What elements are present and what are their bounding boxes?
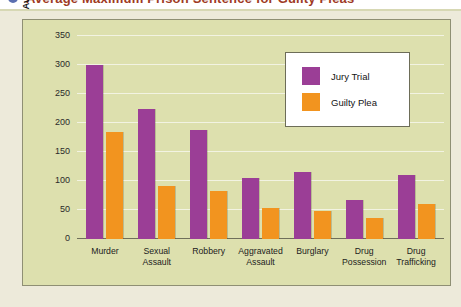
bar-group: SexualAssault — [131, 36, 183, 239]
y-tick-label: 150 — [55, 146, 70, 156]
chart-title-bar: Average Maximum Prison Sentence for Guil… — [0, 0, 461, 9]
bar-guilty-plea — [158, 186, 175, 239]
legend-label: Jury Trial — [331, 71, 370, 82]
bar-guilty-plea — [314, 211, 331, 239]
bar-guilty-plea — [418, 204, 435, 239]
bar-jury-trial — [398, 175, 415, 239]
chart-page: Average Maximum Prison Sentence for Guil… — [0, 0, 461, 307]
bar-jury-trial — [138, 109, 155, 240]
bar-guilty-plea — [106, 132, 123, 239]
legend-swatch — [302, 93, 320, 111]
y-tick-label: 50 — [60, 204, 70, 214]
x-axis-label: SexualAssault — [143, 246, 172, 268]
bar-guilty-plea — [366, 218, 383, 239]
legend-entry: Guilty Plea — [286, 89, 409, 115]
bar-group: AggravatedAssault — [235, 36, 287, 239]
legend-label: Guilty Plea — [331, 97, 377, 108]
blue-bullet-icon — [8, 0, 18, 3]
bar-jury-trial — [242, 178, 259, 239]
y-tick-label: 250 — [55, 88, 70, 98]
chart-panel: Average Maximum Prison Sentence (in mont… — [0, 9, 461, 307]
bar-group: Murder — [79, 36, 131, 239]
x-axis-label: Murder — [91, 246, 119, 257]
y-tick-label: 100 — [55, 175, 70, 185]
bar-jury-trial — [190, 130, 207, 239]
legend-swatch — [302, 67, 320, 85]
x-axis-label: Robbery — [192, 246, 225, 257]
y-tick-label: 200 — [55, 117, 70, 127]
page-title: Average Maximum Prison Sentence for Guil… — [26, 0, 354, 6]
legend-entry: Jury Trial — [286, 63, 409, 89]
x-axis-label: DrugTrafficking — [396, 246, 436, 268]
plot-frame: Average Maximum Prison Sentence (in mont… — [22, 19, 451, 286]
bar-jury-trial — [346, 200, 363, 239]
x-axis-label: AggravatedAssault — [238, 246, 282, 268]
y-tick-label: 0 — [65, 233, 70, 243]
y-tick-label: 350 — [55, 30, 70, 40]
panel-divider — [0, 9, 461, 11]
y-tick-label: 300 — [55, 59, 70, 69]
bar-guilty-plea — [210, 191, 227, 239]
bar-guilty-plea — [262, 208, 279, 239]
x-axis-label: DrugPossession — [342, 246, 386, 268]
bar-jury-trial — [86, 65, 103, 239]
chart-legend: Jury TrialGuilty Plea — [285, 52, 410, 127]
bar-jury-trial — [294, 172, 311, 239]
bar-group: Robbery — [183, 36, 235, 239]
x-axis-label: Burglary — [296, 246, 328, 257]
